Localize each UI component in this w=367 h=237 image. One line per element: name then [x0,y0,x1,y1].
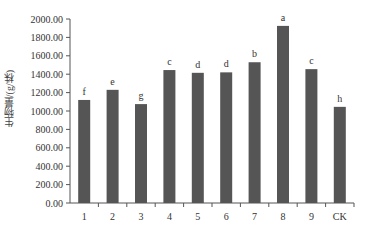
bar-chart: 0.00200.00400.00600.00800.001000.001200.… [0,0,367,237]
significance-letter: c [167,56,172,67]
bar [107,90,119,203]
bar [305,69,317,203]
x-tick-label: CK [333,211,348,222]
y-tick-label: 200.00 [36,179,64,190]
bar [163,70,175,203]
bar [78,100,90,203]
x-tick-label: 7 [252,211,257,222]
x-tick-label: 6 [224,211,229,222]
bar [192,73,204,203]
significance-letter: b [252,48,257,59]
y-tick-label: 1000.00 [31,106,64,117]
y-tick-label: 400.00 [36,161,64,172]
significance-letter: f [83,86,87,97]
significance-letter: e [110,76,115,87]
bar [220,72,232,203]
bar [135,104,147,203]
significance-letter: c [309,55,314,66]
y-tick-label: 1400.00 [31,69,64,80]
y-tick-label: 600.00 [36,142,64,153]
bar [249,62,261,203]
significance-letter: d [195,59,200,70]
x-tick-label: 8 [281,211,286,222]
y-tick-label: 0.00 [46,198,64,209]
bar [334,107,346,203]
x-tick-label: 9 [309,211,314,222]
y-tick-label: 1800.00 [31,32,64,43]
y-tick-label: 1600.00 [31,50,64,61]
y-tick-label: 1200.00 [31,87,64,98]
significance-letter: a [281,12,286,23]
x-tick-label: 1 [82,211,87,222]
x-tick-label: 4 [167,211,172,222]
x-tick-label: 3 [139,211,144,222]
x-tick-label: 2 [110,211,115,222]
significance-letter: d [224,58,229,69]
bar [277,26,289,203]
significance-letter: g [139,90,144,101]
y-tick-label: 800.00 [36,124,64,135]
y-tick-label: 2000.00 [31,14,64,25]
x-tick-label: 5 [195,211,200,222]
significance-letter: h [337,93,342,104]
